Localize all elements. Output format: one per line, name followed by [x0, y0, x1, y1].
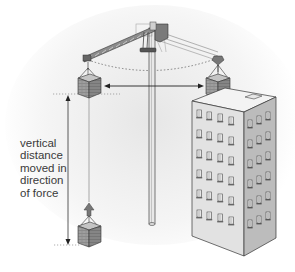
crane-tower [149, 28, 155, 226]
label-line-1: vertical [20, 137, 80, 149]
label-line-3: moved in [20, 162, 80, 174]
label-line-4: direction [20, 174, 80, 186]
vertical-distance-label: vertical distance moved in direction of … [20, 137, 80, 199]
label-line-2: distance [20, 149, 80, 161]
label-line-5: of force [20, 187, 80, 199]
building [192, 88, 276, 256]
diagram-illustration [0, 0, 295, 272]
crane-work-diagram: vertical distance moved in direction of … [0, 0, 295, 272]
